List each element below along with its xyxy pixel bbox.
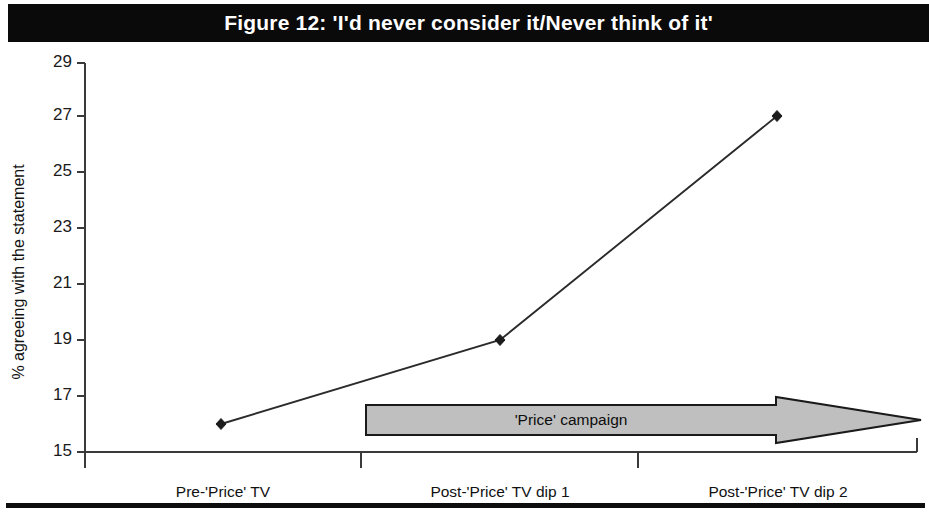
- price-campaign-arrow: 'Price' campaign: [366, 397, 921, 443]
- y-tick-label: 17: [53, 385, 72, 404]
- page-title: Figure 12: 'I'd never consider it/Never …: [224, 11, 713, 35]
- x-category-label: Post-'Price' TV dip 1: [430, 483, 569, 500]
- block-arrow-shape: [366, 397, 921, 443]
- x-category-label: Post-'Price' TV dip 2: [708, 483, 847, 500]
- y-tick-label: 27: [53, 105, 72, 124]
- y-tick-label: 29: [53, 52, 72, 71]
- y-tick-label: 23: [53, 217, 72, 236]
- bottom-divider: [6, 503, 925, 508]
- y-tick-label: 25: [53, 161, 72, 180]
- y-axis-title: % agreeing with the statement: [10, 164, 27, 380]
- line-chart: % agreeing with the statement 29 27 25 2…: [0, 42, 929, 516]
- y-tick-label: 21: [53, 273, 72, 292]
- y-tick-label: 15: [53, 441, 72, 460]
- figure-title-bar: Figure 12: 'I'd never consider it/Never …: [8, 4, 929, 42]
- x-category-label: Pre-'Price' TV: [176, 483, 271, 500]
- data-point-marker: [216, 419, 226, 430]
- series-line-path: [221, 116, 777, 424]
- campaign-label: 'Price' campaign: [515, 411, 628, 428]
- y-tick-label: 19: [53, 329, 72, 348]
- figure-container: Figure 12: 'I'd never consider it/Never …: [0, 0, 929, 516]
